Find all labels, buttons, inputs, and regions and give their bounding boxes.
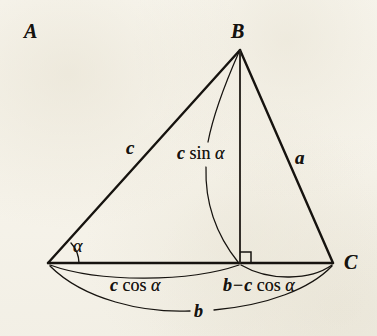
altitude-label-sin: sin [190,143,211,163]
segment-label-b-text: b [194,301,203,321]
segment-label-alpha: α [151,275,160,295]
segment-label-cos: cos [257,275,281,295]
altitude-label-alpha: α [215,143,224,163]
vertex-label-a: A [24,21,37,41]
segment-label-c: c [244,275,252,295]
side-label-c: c [126,138,134,157]
angle-label-alpha: α [73,237,82,255]
segment-label-c: c [110,275,118,295]
side-label-a: a [295,148,305,167]
minus-sign: − [232,275,244,295]
segment-label-b: b [223,275,232,295]
altitude-label: c sin α [177,144,224,162]
segment-label-b-minus-c-cos-alpha: b−c cos α [223,276,295,294]
vertex-label-b: B [231,21,244,41]
segment-label-b: b [194,302,203,320]
vertex-label-c: C [344,252,357,272]
segment-label-cos: cos [123,275,147,295]
geometry-figure: A B C c a α c sin α c cos α b−c cos α b [0,0,377,336]
altitude-leader-arc-lower [206,167,238,262]
altitude-leader-arc-upper [208,52,239,142]
right-angle-marker-shape [240,252,251,263]
figure-canvas [0,0,377,336]
altitude-label-c: c [177,143,185,163]
segment-label-alpha: α [285,275,294,295]
side-bc-line [240,50,333,263]
segment-label-c-cos-alpha: c cos α [110,276,160,294]
